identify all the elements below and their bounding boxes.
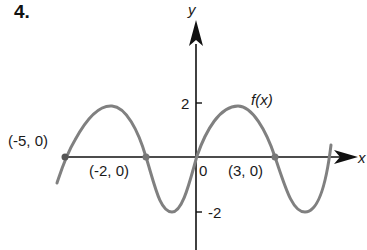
point-neg5-0 xyxy=(62,154,69,161)
origin-label: 0 xyxy=(199,163,207,178)
y-axis-label: y xyxy=(188,2,196,17)
y-axis-arrow-icon xyxy=(189,20,203,46)
x-axis-label: x xyxy=(358,150,366,165)
label-neg2-0: (-2, 0) xyxy=(89,163,129,178)
function-curve xyxy=(57,106,331,212)
point-3-0 xyxy=(272,154,279,161)
function-graph xyxy=(0,0,367,250)
y-tick-label-neg2: -2 xyxy=(208,205,221,220)
label-3-0: (3, 0) xyxy=(228,163,263,178)
label-neg5-0: (-5, 0) xyxy=(8,133,48,148)
y-tick-label-2: 2 xyxy=(181,96,189,111)
point-neg2-0 xyxy=(143,154,150,161)
curve-label: f(x) xyxy=(251,92,273,107)
